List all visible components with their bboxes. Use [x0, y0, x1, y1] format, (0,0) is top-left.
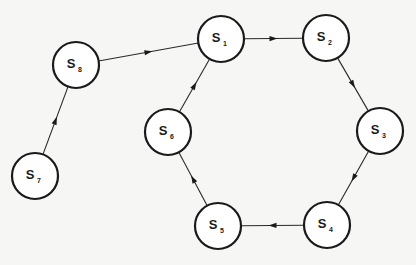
node-subscript: 1: [223, 40, 227, 47]
node-s1: S1: [198, 16, 244, 62]
node-label: S: [371, 122, 380, 137]
node-circle: [53, 42, 99, 88]
edge-s1-to-s2: [244, 36, 303, 41]
node-subscript: 2: [328, 39, 332, 46]
state-diagram: S1S2S3S4S5S6S7S8: [0, 0, 416, 265]
arrowhead-icon: [352, 173, 358, 181]
arrowhead-icon: [269, 223, 277, 228]
node-circle: [357, 108, 403, 154]
nodes-layer: S1S2S3S4S5S6S7S8: [12, 15, 403, 249]
node-s4: S4: [304, 202, 350, 248]
node-s6: S6: [145, 109, 191, 155]
node-label: S: [26, 167, 35, 182]
node-circle: [198, 16, 244, 62]
arrowhead-icon: [190, 82, 196, 90]
edge-s4-to-s5: [241, 223, 304, 228]
node-label: S: [318, 216, 327, 231]
node-circle: [12, 153, 58, 199]
arrowhead-icon: [191, 175, 197, 183]
edge-s2-to-s3: [338, 58, 369, 111]
edge-s7-to-s8: [43, 87, 68, 155]
node-subscript: 5: [220, 227, 224, 234]
edge-s8-to-s1: [99, 43, 199, 61]
node-circle: [303, 15, 349, 61]
node-circle: [304, 202, 350, 248]
arrowhead-icon: [52, 117, 57, 125]
node-s5: S5: [195, 203, 241, 249]
node-label: S: [212, 30, 221, 45]
node-label: S: [159, 123, 168, 138]
node-subscript: 3: [382, 132, 386, 139]
node-subscript: 6: [170, 133, 174, 140]
node-s2: S2: [303, 15, 349, 61]
edge-s3-to-s4: [338, 151, 368, 205]
node-s8: S8: [53, 42, 99, 88]
node-circle: [145, 109, 191, 155]
node-label: S: [209, 217, 218, 232]
edge-s5-to-s6: [179, 152, 207, 205]
arrowhead-icon: [144, 50, 152, 55]
node-subscript: 7: [37, 177, 41, 184]
node-s7: S7: [12, 153, 58, 199]
node-subscript: 4: [329, 226, 333, 233]
node-subscript: 8: [78, 66, 82, 73]
arrowhead-icon: [349, 80, 355, 88]
node-circle: [195, 203, 241, 249]
edge-s6-to-s1: [179, 59, 209, 112]
node-s3: S3: [357, 108, 403, 154]
node-label: S: [317, 29, 326, 44]
arrowhead-icon: [269, 36, 277, 41]
node-label: S: [67, 56, 76, 71]
